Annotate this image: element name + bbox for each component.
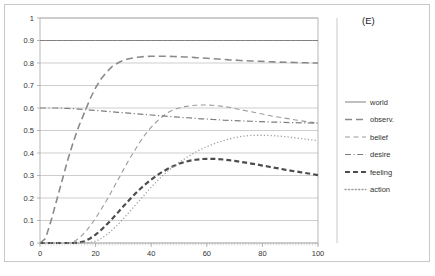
x-tick-label: 60 bbox=[203, 249, 211, 258]
x-tick-label: 80 bbox=[258, 249, 266, 258]
legend-label-belief: belief bbox=[370, 133, 389, 142]
chart-screenshot: 00.10.20.30.40.50.60.70.80.91 0204060801… bbox=[0, 0, 435, 276]
series-lines bbox=[40, 41, 318, 244]
legend-label-feeling: feeling bbox=[370, 168, 392, 177]
y-tick-label: 1 bbox=[30, 14, 34, 23]
y-tick-label: 0.2 bbox=[24, 194, 34, 203]
x-tick-label: 0 bbox=[38, 249, 42, 258]
legend-label-action: action bbox=[370, 185, 390, 194]
line-chart: 00.10.20.30.40.50.60.70.80.91 0204060801… bbox=[0, 0, 435, 276]
series-line-feeling bbox=[40, 159, 318, 243]
series-line-belief bbox=[40, 105, 318, 243]
x-tick-label: 40 bbox=[147, 249, 155, 258]
y-tick-label: 0.6 bbox=[24, 104, 34, 113]
legend-label-observ: observ. bbox=[370, 115, 394, 124]
x-tick-label: 20 bbox=[91, 249, 99, 258]
y-tick-label: 0.9 bbox=[24, 36, 34, 45]
y-tick-label: 0.1 bbox=[24, 216, 34, 225]
y-tick-label: 0 bbox=[30, 239, 34, 248]
y-axis-tick-labels: 00.10.20.30.40.50.60.70.80.91 bbox=[24, 14, 34, 248]
series-line-action bbox=[40, 135, 318, 243]
chart-legend: worldobserv.beliefdesirefeelingaction bbox=[345, 98, 394, 195]
series-line-desire bbox=[40, 108, 318, 123]
legend-label-desire: desire bbox=[370, 150, 390, 159]
y-tick-label: 0.8 bbox=[24, 59, 34, 68]
y-tick-label: 0.7 bbox=[24, 81, 34, 90]
x-axis-tick-labels: 020406080100 bbox=[38, 249, 324, 258]
panel-label: (E) bbox=[362, 15, 375, 26]
axis-ticks bbox=[37, 18, 318, 247]
y-tick-label: 0.3 bbox=[24, 171, 34, 180]
legend-label-world: world bbox=[369, 98, 388, 107]
x-tick-label: 100 bbox=[312, 249, 325, 258]
y-tick-label: 0.4 bbox=[24, 149, 34, 158]
y-tick-label: 0.5 bbox=[24, 126, 34, 135]
gridlines bbox=[40, 18, 318, 243]
series-line-observ bbox=[40, 56, 318, 243]
